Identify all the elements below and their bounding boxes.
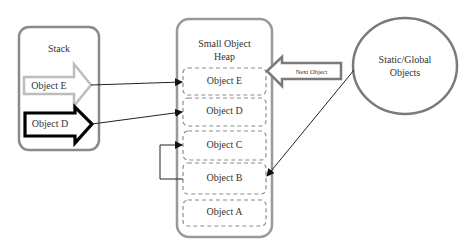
stack-object-d-label: Object D: [25, 118, 75, 130]
heap-title-line2: Heap: [177, 51, 272, 63]
next-object-label: Next Object: [282, 66, 341, 78]
connector-static-to-heap-b: [267, 70, 354, 176]
stack-title: Stack: [19, 43, 99, 55]
heap-object-e-label: Object E: [183, 75, 266, 87]
connector-stack-e-to-heap-e: [91, 82, 182, 85]
stack-object-e-label: Object E: [24, 80, 74, 92]
connector-stack-d-to-heap-d: [92, 112, 182, 124]
static-global-line2: Objects: [353, 67, 457, 79]
heap-object-a-label: Object A: [183, 206, 266, 218]
static-global-line1: Static/Global: [353, 54, 457, 66]
heap-object-b-label: Object B: [183, 172, 266, 184]
static-global-circle: [353, 18, 457, 114]
heap-title-line1: Small Object: [177, 38, 272, 50]
heap-object-d-label: Object D: [183, 105, 266, 117]
heap-object-c-label: Object C: [183, 139, 266, 151]
